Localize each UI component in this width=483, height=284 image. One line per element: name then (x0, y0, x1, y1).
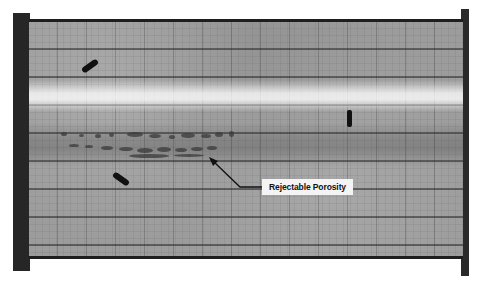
pore (181, 133, 195, 138)
bright-band (29, 80, 463, 112)
rejectable-porosity-label: Rejectable Porosity (262, 179, 353, 195)
lead-marker-vertical (347, 110, 352, 127)
pore (191, 147, 203, 151)
pore (79, 134, 84, 137)
radiograph-film (29, 19, 463, 259)
pore (109, 133, 114, 137)
pore (169, 135, 175, 139)
pore (201, 134, 211, 138)
pore (157, 147, 171, 152)
pore (85, 145, 93, 148)
pore (174, 154, 204, 157)
pore (119, 147, 133, 151)
pore (229, 131, 234, 137)
pore (101, 146, 113, 150)
weld-porosity-band (29, 122, 463, 167)
pore (215, 132, 223, 137)
film-left-edge-bar (13, 13, 30, 271)
pore (95, 134, 101, 138)
pore (129, 154, 169, 158)
pore (61, 132, 67, 136)
pore (149, 134, 161, 138)
pore (207, 146, 217, 150)
pore (175, 148, 187, 152)
pore (137, 148, 153, 153)
pore (127, 132, 143, 137)
pore (69, 144, 79, 147)
